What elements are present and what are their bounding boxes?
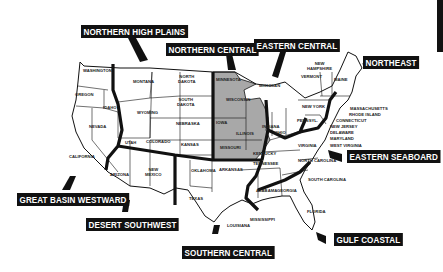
region-label-great-basin-westward: GREAT BASIN WESTWARD: [17, 193, 129, 206]
region-label-northeast: NORTHEAST: [363, 56, 419, 69]
region-label-eastern-seaboard: EASTERN SEABOARD: [347, 150, 441, 163]
state-iowa: IOWA: [216, 120, 227, 125]
state-indiana: INDIANA: [262, 124, 279, 129]
state-texas: TEXAS: [189, 196, 203, 201]
state-pennsylvania: PENNSYL.: [297, 118, 318, 123]
state-north-carolina: NORTH CAROLINA: [298, 158, 336, 163]
state-washington: WASHINGTON: [83, 68, 112, 73]
corner-black-bar: [437, 0, 443, 52]
arrow-great-basin-westward: [62, 176, 76, 190]
state-idaho: IDAHO: [103, 105, 117, 110]
state-utah: UTAH: [125, 140, 136, 145]
state-montana: MONTANA: [133, 79, 154, 84]
region-label-gulf-coastal: GULF COASTAL: [334, 233, 403, 246]
state-south-dakota: SOUTHDAKOTA: [177, 97, 195, 107]
region-label-northern-high-plains: NORTHERN HIGH PLAINS: [81, 25, 188, 38]
state-colorado: COLORADO: [146, 139, 170, 144]
state-maryland: MARYLAND: [330, 136, 354, 141]
state-vermont: VERMONT: [301, 74, 322, 79]
state-south-carolina: SOUTH CAROLINA: [308, 177, 346, 182]
state-arkansas: ARKANSAS: [219, 167, 243, 172]
state-michigan: MICHIGAN: [259, 83, 280, 88]
state-florida: FLORIDA: [307, 209, 326, 214]
state-nevada: NEVADA: [89, 124, 106, 129]
state-maine: MAINE: [334, 77, 348, 82]
region-label-northern-central: NORTHERN CENTRAL: [166, 43, 259, 56]
state-new-hampshire-line2: HAMPSHIRE: [307, 66, 332, 71]
state-missouri: MISSOURI: [220, 145, 241, 150]
state-new-mexico-line2: MEXICO: [145, 172, 162, 177]
region-label-southern-central: SOUTHERN CENTRAL: [182, 246, 275, 259]
arrow-southern-central: [212, 225, 220, 234]
state-wisconsin: WISCONSIN: [226, 97, 250, 102]
region-label-desert-southwest: DESERT SOUTHWEST: [86, 218, 179, 231]
state-california: CALIFORNIA: [69, 154, 95, 159]
arrow-eastern-central: [272, 52, 286, 78]
state-wyoming: WYOMING: [137, 110, 158, 115]
state-delaware: DELAWARE: [330, 130, 354, 135]
state-nebraska: NEBRASKA: [176, 121, 200, 126]
state-mississippi: MISSISSIPPI: [250, 217, 275, 222]
state-kentucky: KENTUCKY: [253, 151, 276, 156]
state-rhode-island: RHODE ISLAND: [349, 112, 381, 117]
state-north-dakota-line2: DAKOTA: [178, 79, 196, 84]
state-new-hampshire: NEWHAMPSHIRE: [307, 61, 332, 71]
state-alabama: ALABAMA: [256, 188, 277, 193]
state-georgia: GEORGIA: [277, 188, 297, 193]
state-illinois: ILLINOIS: [236, 131, 254, 136]
state-kansas: KANSAS: [181, 142, 199, 147]
us-regions-map: [0, 0, 443, 272]
state-new-york: NEW YORK: [302, 104, 325, 109]
arrow-northern-central: [226, 54, 236, 70]
state-connecticut: CONNECTICUT: [336, 118, 366, 123]
state-louisiana: LOUISIANA: [227, 223, 250, 228]
state-south-dakota-line2: DAKOTA: [177, 102, 195, 107]
state-west-virginia: WEST VIRGINIA: [330, 143, 362, 148]
state-tennessee: TENNESSEE: [253, 161, 278, 166]
state-oregon: OREGON: [75, 92, 94, 97]
state-massachusetts: MASSACHUSETTS: [350, 106, 388, 111]
state-ohio: OHIO: [275, 130, 286, 135]
state-new-mexico: NEWMEXICO: [145, 167, 162, 177]
state-oklahoma: OKLAHOMA: [191, 168, 216, 173]
state-minnesota: MINNESOTA: [216, 77, 241, 82]
region-label-eastern-central: EASTERN CENTRAL: [254, 39, 340, 52]
state-arizona: ARIZONA: [110, 172, 129, 177]
state-virginia: VIRGINIA: [298, 143, 317, 148]
state-new-jersey: NEW JERSEY: [330, 124, 357, 129]
state-north-dakota: NORTHDAKOTA: [178, 74, 196, 84]
arrow-gulf-coastal: [316, 232, 326, 244]
arrow-northern-high-plains: [128, 38, 148, 62]
